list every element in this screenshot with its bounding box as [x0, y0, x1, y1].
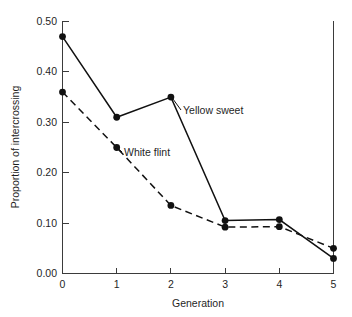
data-point	[222, 217, 229, 224]
x-tick-label-3: 3	[222, 278, 228, 290]
x-tick-labels: 0 1 2 3 4 5	[60, 278, 337, 290]
x-tick-label-4: 4	[276, 278, 282, 290]
y-tick-label-5: 0.50	[37, 15, 58, 27]
x-tick-label-2: 2	[168, 278, 174, 290]
y-tick-marks	[63, 22, 69, 274]
annotation-yellow-sweet-label: Yellow sweet	[183, 104, 243, 116]
y-tick-label-1: 0.10	[37, 217, 58, 229]
intercrossing-line-chart: 0.00 0.10 0.20 0.30 0.40 0.50 0 1 2 3 4 …	[0, 0, 352, 317]
axes-group	[63, 21, 334, 274]
y-tick-label-3: 0.30	[37, 116, 58, 128]
data-point	[330, 255, 337, 262]
data-point	[222, 224, 229, 231]
x-tick-label-1: 1	[114, 278, 120, 290]
series-yellow-sweet-markers	[59, 33, 337, 262]
series-yellow-sweet	[59, 33, 337, 262]
y-tick-label-0: 0.00	[37, 267, 58, 279]
x-tick-marks	[63, 268, 334, 274]
annotation-yellow-sweet: Yellow sweet	[183, 104, 243, 116]
chart-container: 0.00 0.10 0.20 0.30 0.40 0.50 0 1 2 3 4 …	[0, 0, 352, 317]
y-tick-label-2: 0.20	[37, 166, 58, 178]
x-axis-title: Generation	[172, 297, 224, 309]
y-tick-label-4: 0.40	[37, 65, 58, 77]
y-tick-labels: 0.00 0.10 0.20 0.30 0.40 0.50	[37, 15, 58, 279]
data-point	[59, 89, 66, 96]
annotation-white-flint: White flint	[124, 146, 170, 158]
data-point	[59, 33, 66, 40]
x-tick-label-0: 0	[60, 278, 66, 290]
data-point	[168, 202, 175, 209]
data-point	[276, 223, 283, 230]
y-axis-title: Proportion of intercrossing	[9, 86, 21, 209]
series-yellow-sweet-line	[63, 37, 334, 259]
annotation-white-flint-label: White flint	[124, 146, 170, 158]
data-point	[330, 245, 337, 252]
x-tick-label-5: 5	[331, 278, 337, 290]
data-point	[276, 216, 283, 223]
data-point	[113, 114, 120, 121]
